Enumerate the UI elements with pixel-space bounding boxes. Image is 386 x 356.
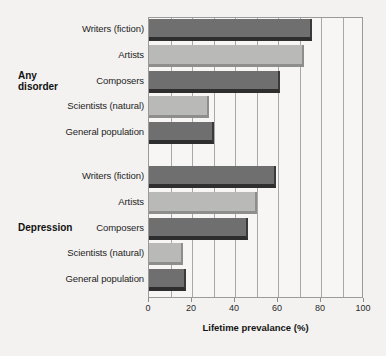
bar-row [149,71,364,93]
category-label: Artists [118,197,144,207]
x-axis-tick [148,298,149,302]
bar [149,96,209,118]
category-label: Artists [118,50,144,60]
x-axis-tick [277,298,278,302]
bar-chart: Writers (fiction)ArtistsComposersScienti… [0,0,386,356]
category-label: Writers (fiction) [82,24,144,34]
category-label-column: Writers (fiction)ArtistsComposersScienti… [0,0,144,356]
bar-row [149,192,364,214]
group-label: Anydisorder [0,70,92,92]
category-label: Composers [96,223,144,233]
x-axis-tick [320,298,321,302]
plot-area [148,17,363,298]
category-label: General population [66,127,144,137]
bar-row [149,19,364,41]
x-axis-tick-label: 0 [145,303,150,313]
bar [149,71,280,93]
x-axis-tick [234,298,235,302]
x-axis-title: Lifetime prevalance (%) [148,322,363,333]
x-axis-tick-label: 80 [315,303,325,313]
category-label: Scientists (natural) [67,101,144,111]
x-axis-tick-label: 60 [272,303,282,313]
bar-row [149,269,364,291]
bar-row [149,166,364,188]
bar [149,45,304,67]
bar-row [149,122,364,144]
bar [149,166,276,188]
bar-row [149,218,364,240]
x-axis-tick [363,298,364,302]
category-label: Composers [96,76,144,86]
group-label: Depression [0,222,92,233]
category-label: Writers (fiction) [82,171,144,181]
bar-row [149,45,364,67]
bar [149,192,257,214]
x-axis-tick-label: 100 [355,303,370,313]
x-axis: 020406080100 [148,298,363,318]
bar [149,19,312,41]
category-label: General population [66,274,144,284]
bar [149,269,186,291]
x-axis-tick-label: 20 [186,303,196,313]
bar [149,243,183,265]
x-axis-tick [191,298,192,302]
bar [149,218,248,240]
category-label: Scientists (natural) [67,248,144,258]
bar [149,122,214,144]
x-axis-tick-label: 40 [229,303,239,313]
bar-row [149,243,364,265]
bar-row [149,96,364,118]
